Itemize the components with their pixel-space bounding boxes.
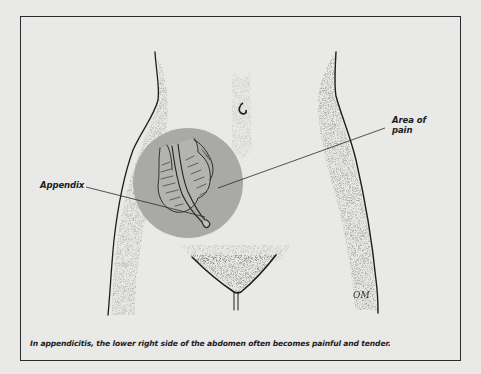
- artist-signature: OM: [353, 290, 370, 300]
- area-of-pain-label-line1: Area of: [392, 115, 442, 125]
- figure-caption: In appendicitis, the lower right side of…: [30, 339, 460, 348]
- appendix-label: Appendix: [40, 180, 84, 190]
- area-of-pain-label: Area of pain: [392, 115, 442, 135]
- area-of-pain-label-line2: pain: [392, 125, 442, 135]
